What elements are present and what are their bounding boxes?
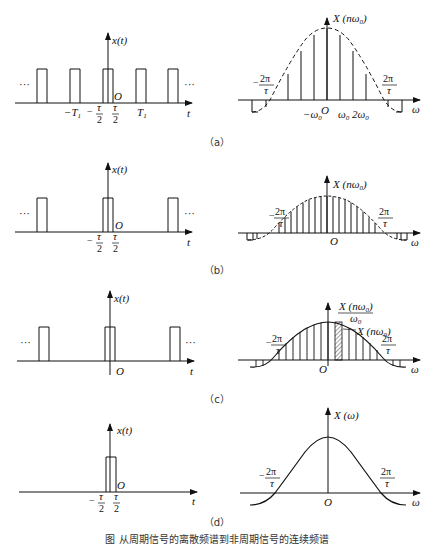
svg-text:τ: τ: [386, 344, 391, 356]
ylabel: X (nω0): [332, 178, 367, 192]
xlabel: ω: [412, 496, 420, 508]
spectral-line-negative: [396, 100, 402, 112]
xlabel: ω: [411, 363, 419, 375]
hatched-strip: [335, 322, 342, 360]
ellipsis-right: ···: [185, 336, 196, 348]
origin-label: O: [319, 363, 327, 375]
svg-text:2π: 2π: [260, 73, 270, 84]
panel-b-freq-domain: [238, 176, 420, 240]
pulse: [37, 69, 47, 103]
ellipsis-left: ···: [20, 336, 31, 348]
figure-caption: 图 从周期信号的离散频谱到非周期信号的连续频谱: [0, 531, 434, 546]
svg-text:−: −: [253, 77, 259, 88]
xlabel: ω: [411, 236, 419, 248]
ylabel: X (ω): [333, 409, 359, 422]
svg-text:2π: 2π: [383, 73, 393, 84]
svg-text:2π: 2π: [381, 466, 391, 477]
pulse: [106, 457, 116, 492]
ylabel: x(t): [116, 424, 133, 437]
pulse: [170, 327, 180, 361]
tick-neg-2pi-over-tau: − 2π τ: [269, 206, 289, 229]
ylabel: x(t): [113, 292, 130, 305]
xlabel: ω: [412, 103, 420, 115]
tick-neg-T1: −T1: [64, 106, 81, 120]
xlabel: t: [190, 365, 194, 377]
pulse: [168, 69, 178, 103]
tick-2pi-over-tau: 2π τ: [378, 206, 393, 229]
svg-text:2π: 2π: [379, 206, 389, 217]
svg-text:−: −: [87, 106, 93, 117]
panel-d-time-domain: [19, 424, 197, 492]
origin-label: O: [330, 235, 338, 247]
panel-b-time-domain: [15, 163, 192, 232]
tick-neg-tau-half: − τ 2: [87, 230, 103, 254]
tick-2pi-over-tau: 2π τ: [380, 466, 395, 489]
svg-text:2: 2: [99, 503, 104, 514]
origin-label: O: [117, 479, 125, 491]
origin-label: O: [116, 365, 124, 377]
xlabel: t: [187, 107, 191, 119]
tick-tau-half: τ 2: [112, 230, 119, 254]
ellipsis-left: ···: [19, 78, 30, 90]
svg-text:2: 2: [97, 243, 102, 254]
svg-text:−T1: −T1: [64, 106, 81, 120]
tick-tau-half: τ 2: [113, 490, 120, 514]
panel-c-freq-domain: [238, 303, 420, 367]
ylabel: x(t): [111, 163, 128, 176]
svg-text:2: 2: [113, 243, 118, 254]
svg-text:τ: τ: [387, 84, 392, 96]
svg-text:−: −: [89, 495, 95, 506]
tick-neg-2pi-over-tau: − 2π τ: [266, 333, 286, 356]
svg-text:2π: 2π: [272, 333, 282, 344]
panel-label-d: （d）: [197, 514, 237, 529]
svg-text:τ: τ: [385, 477, 390, 489]
svg-text:T1: T1: [137, 106, 147, 120]
panel-label-a: （a）: [197, 134, 237, 149]
svg-text:τ: τ: [264, 84, 269, 96]
ylabel: X (nω0): [332, 12, 367, 26]
ellipsis-right: ···: [184, 207, 195, 219]
tick-neg-omega0: −ω0: [303, 108, 322, 122]
ellipsis-right: ···: [184, 78, 195, 90]
tick-neg-tau-half: − τ 2: [89, 490, 105, 514]
svg-text:−: −: [87, 235, 93, 246]
svg-text:τ: τ: [383, 217, 388, 229]
panel-a-time-domain: [15, 33, 192, 103]
svg-text:2π: 2π: [382, 333, 392, 344]
pulse: [39, 327, 49, 361]
tick-neg-2pi-over-tau: − 2π τ: [253, 73, 274, 96]
ellipsis-left: ···: [19, 207, 30, 219]
svg-text:2π: 2π: [266, 466, 276, 477]
svg-text:−: −: [259, 470, 265, 481]
pulse: [168, 198, 178, 232]
ylabel-fraction: X (nω0) ω0: [338, 300, 373, 326]
tick-2pi-over-tau: 2π τ: [381, 333, 396, 356]
svg-text:ω0: ω0: [350, 312, 362, 326]
svg-text:2: 2: [97, 114, 102, 125]
tick-neg-2pi-over-tau: − 2π τ: [259, 466, 280, 489]
origin-label: O: [321, 104, 329, 116]
panel-label-c: （c）: [197, 391, 237, 406]
tick-2omega0: 2ω0: [352, 108, 369, 122]
tick-neg-tau-half: − τ 2: [87, 101, 103, 125]
panel-d-freq-domain: [240, 408, 420, 505]
xlabel: t: [187, 236, 191, 248]
panel-a-freq-domain: [238, 18, 420, 112]
svg-text:2π: 2π: [275, 206, 285, 217]
tick-T1: T1: [137, 106, 147, 120]
pulse: [136, 69, 146, 103]
leader-line: [343, 329, 356, 330]
pulse: [37, 198, 47, 232]
svg-text:τ: τ: [270, 477, 275, 489]
xlabel: t: [192, 495, 196, 507]
svg-text:2: 2: [114, 503, 119, 514]
pulse: [70, 69, 80, 103]
tick-tau-half: τ 2: [112, 101, 119, 125]
panel-label-b: （b）: [197, 262, 237, 277]
tick-2pi-over-tau: 2π τ: [382, 73, 397, 96]
tick-omega0: ω0: [338, 108, 350, 122]
ylabel: x(t): [111, 34, 128, 47]
svg-text:2: 2: [113, 114, 118, 125]
origin-label: O: [324, 496, 332, 508]
panel-c-time-domain: [17, 291, 194, 375]
